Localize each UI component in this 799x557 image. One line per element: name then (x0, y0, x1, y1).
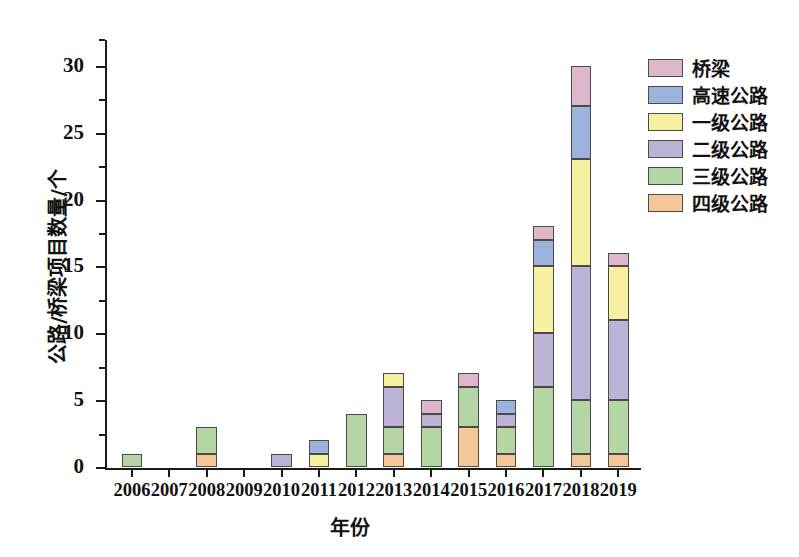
bar-segment-高速公路-2011[interactable] (309, 440, 330, 453)
bar-stack[interactable] (421, 400, 442, 467)
bar-segment-一级公路-2017[interactable] (533, 266, 554, 333)
bar-segment-四级公路-2013[interactable] (383, 454, 404, 467)
y-tick-15: 15 (96, 266, 105, 268)
bar-segment-四级公路-2019[interactable] (608, 454, 629, 467)
bar-stack[interactable] (346, 414, 367, 468)
bar-segment-一级公路-2013[interactable] (383, 373, 404, 386)
y-tick-label-25: 25 (63, 120, 84, 145)
legend-item-桥梁[interactable]: 桥梁 (648, 54, 798, 81)
bar-stack[interactable] (383, 373, 404, 467)
legend-label: 高速公路 (692, 81, 768, 108)
bar-segment-三级公路-2016[interactable] (496, 427, 517, 454)
x-tick-2015 (468, 468, 470, 477)
y-minor-tick (99, 300, 105, 302)
bar-segment-桥梁-2014[interactable] (421, 400, 442, 413)
x-tick-2019 (617, 468, 619, 477)
legend-label: 一级公路 (692, 108, 768, 135)
x-tick-2010 (281, 468, 283, 477)
x-tick-2014 (430, 468, 432, 477)
bar-segment-一级公路-2011[interactable] (309, 454, 330, 467)
plot-area: 051015202530 200620072008200920102011201… (105, 40, 640, 468)
x-tick-2017 (542, 468, 544, 477)
y-tick-5: 5 (96, 400, 105, 402)
bar-stack[interactable] (271, 454, 292, 467)
bar-segment-桥梁-2015[interactable] (458, 373, 479, 386)
x-tick-2012 (355, 468, 357, 477)
bar-segment-二级公路-2013[interactable] (383, 387, 404, 427)
bar-segment-桥梁-2017[interactable] (533, 226, 554, 239)
bar-segment-一级公路-2018[interactable] (571, 159, 592, 266)
x-tick-label-2012: 2012 (338, 480, 375, 501)
legend-swatch-icon (648, 194, 683, 212)
y-tick-10: 10 (96, 333, 105, 335)
bar-stack[interactable] (496, 400, 517, 467)
x-tick-label-2014: 2014 (413, 480, 450, 501)
y-tick-30: 30 (96, 66, 105, 68)
bar-segment-一级公路-2019[interactable] (608, 266, 629, 320)
bar-segment-二级公路-2017[interactable] (533, 333, 554, 387)
y-tick-0: 0 (96, 467, 105, 469)
bar-segment-二级公路-2014[interactable] (421, 414, 442, 427)
bar-segment-高速公路-2017[interactable] (533, 240, 554, 267)
bar-segment-三级公路-2015[interactable] (458, 387, 479, 427)
bar-segment-桥梁-2018[interactable] (571, 66, 592, 106)
legend-item-高速公路[interactable]: 高速公路 (648, 81, 798, 108)
bar-segment-高速公路-2016[interactable] (496, 400, 517, 413)
bar-stack[interactable] (122, 454, 143, 467)
bar-segment-三级公路-2013[interactable] (383, 427, 404, 454)
x-tick-label-2009: 2009 (226, 480, 263, 501)
legend-swatch-icon (648, 59, 683, 77)
legend-swatch-icon (648, 140, 683, 158)
bar-segment-二级公路-2016[interactable] (496, 414, 517, 427)
x-tick-label-2011: 2011 (301, 480, 337, 501)
y-axis-line (105, 40, 107, 469)
bar-segment-四级公路-2018[interactable] (571, 454, 592, 467)
bar-segment-三级公路-2014[interactable] (421, 427, 442, 467)
x-tick-label-2018: 2018 (562, 480, 599, 501)
stacked-bar-chart: 公路/桥梁项目数量/个 年份 051015202530 200620072008… (0, 0, 799, 557)
x-tick-label-2007: 2007 (151, 480, 188, 501)
legend-label: 四级公路 (692, 189, 768, 216)
bar-segment-桥梁-2019[interactable] (608, 253, 629, 266)
bar-segment-三级公路-2006[interactable] (122, 454, 143, 467)
x-tick-2013 (393, 468, 395, 477)
bar-stack[interactable] (309, 440, 330, 467)
x-tick-label-2016: 2016 (488, 480, 525, 501)
bar-segment-三级公路-2017[interactable] (533, 387, 554, 467)
bar-segment-三级公路-2019[interactable] (608, 400, 629, 454)
x-tick-2018 (580, 468, 582, 477)
bar-stack[interactable] (458, 373, 479, 467)
bar-stack[interactable] (196, 427, 217, 467)
y-tick-label-30: 30 (63, 53, 84, 78)
y-minor-tick (99, 166, 105, 168)
bar-segment-三级公路-2012[interactable] (346, 414, 367, 468)
y-tick-label-15: 15 (63, 253, 84, 278)
legend-swatch-icon (648, 113, 683, 131)
legend-item-二级公路[interactable]: 二级公路 (648, 135, 798, 162)
x-tick-2016 (505, 468, 507, 477)
bar-stack[interactable] (608, 253, 629, 467)
x-axis-line (105, 468, 641, 470)
bar-stack[interactable] (533, 226, 554, 467)
bar-segment-二级公路-2018[interactable] (571, 266, 592, 400)
bar-segment-二级公路-2019[interactable] (608, 320, 629, 400)
bar-segment-高速公路-2018[interactable] (571, 106, 592, 160)
bar-segment-四级公路-2016[interactable] (496, 454, 517, 467)
y-tick-label-20: 20 (63, 187, 84, 212)
x-tick-2007 (168, 468, 170, 477)
y-tick-label-10: 10 (63, 320, 84, 345)
bar-segment-二级公路-2010[interactable] (271, 454, 292, 467)
y-tick-label-0: 0 (74, 454, 85, 479)
x-tick-label-2015: 2015 (450, 480, 487, 501)
bar-segment-四级公路-2008[interactable] (196, 454, 217, 467)
x-tick-2006 (131, 468, 133, 477)
bar-segment-三级公路-2018[interactable] (571, 400, 592, 454)
bar-segment-四级公路-2015[interactable] (458, 427, 479, 467)
bar-segment-三级公路-2008[interactable] (196, 427, 217, 454)
y-tick-20: 20 (96, 200, 105, 202)
legend-item-一级公路[interactable]: 一级公路 (648, 108, 798, 135)
bar-stack[interactable] (571, 66, 592, 467)
legend-item-三级公路[interactable]: 三级公路 (648, 162, 798, 189)
legend-item-四级公路[interactable]: 四级公路 (648, 189, 798, 216)
x-tick-label-2017: 2017 (525, 480, 562, 501)
